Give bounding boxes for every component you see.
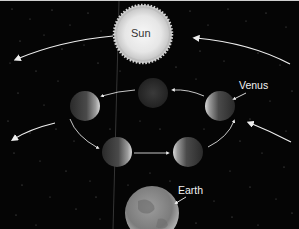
venus-phases-diagram: Sun Venus Earth	[0, 0, 299, 229]
venus-right	[205, 91, 235, 121]
venus-pointer	[234, 93, 246, 99]
venus-left	[70, 91, 100, 121]
earth	[125, 186, 179, 229]
arrow-sun-left-bottom	[14, 123, 55, 139]
earth-label: Earth	[178, 184, 203, 196]
arrow-sun-right-top	[196, 38, 290, 64]
venus-label: Venus	[239, 79, 268, 91]
venus-top	[138, 78, 168, 108]
sun-label: Sun	[131, 27, 151, 39]
venus-bottom-right	[173, 137, 203, 167]
venus-bottom-left	[102, 137, 132, 167]
earth-pointer	[176, 197, 186, 203]
arrow-sun-right-bottom	[250, 123, 291, 142]
arrow-sun-left-top	[17, 36, 113, 59]
